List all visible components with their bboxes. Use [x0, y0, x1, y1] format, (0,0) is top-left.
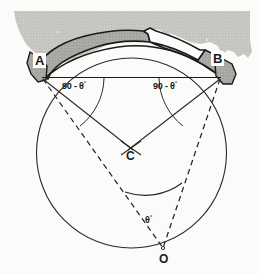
- point-label-b: B: [211, 51, 224, 66]
- line-a-to-c: [43, 79, 133, 150]
- angle-label-right: 90 - θ°: [153, 80, 177, 91]
- angle-label-right-degree: °: [175, 80, 177, 86]
- angle-label-left: 90 - θ°: [62, 80, 86, 91]
- angle-label-left-degree: °: [84, 80, 86, 86]
- point-label-o: O: [159, 253, 168, 265]
- angle-label-center: θ°: [145, 214, 152, 225]
- angle-label-left-text: 90 - θ: [62, 81, 84, 91]
- ground-speck-icon: [206, 39, 208, 41]
- angle-arc-at-o: [125, 183, 182, 195]
- dashed-line-b-to-o: [163, 79, 220, 248]
- geometry-figure: A B C O 90 - θ° 90 - θ° θ°: [0, 0, 260, 274]
- angle-label-right-text: 90 - θ: [153, 81, 175, 91]
- point-label-a: A: [33, 53, 46, 68]
- geometry-diagram-svg: [0, 0, 260, 274]
- point-label-c: C: [126, 150, 135, 162]
- angle-label-center-degree: °: [150, 214, 152, 220]
- ground-speck-icon: [57, 31, 59, 33]
